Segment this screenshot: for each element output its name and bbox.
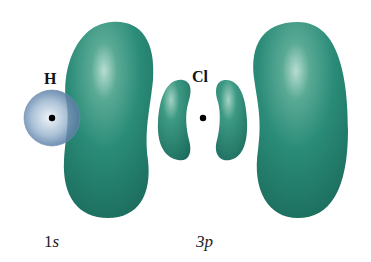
p-lobe-right-small: [216, 80, 247, 160]
h-nucleus-dot: [49, 115, 55, 121]
orbital-label-3p: 3p: [196, 232, 213, 252]
orbital-letter: s: [53, 232, 60, 251]
p-lobe-right-large: [253, 22, 348, 218]
orbital-number: 3: [196, 232, 205, 251]
cl-atom-label: Cl: [192, 68, 208, 86]
p-lobe-left-small: [158, 80, 191, 160]
orbital-diagram: H Cl 1s 3p: [0, 0, 371, 262]
cl-nucleus-dot: [200, 115, 206, 121]
orbital-number: 1: [44, 232, 53, 251]
orbital-letter: p: [205, 232, 214, 251]
orbital-label-1s: 1s: [44, 232, 59, 252]
h-atom-label: H: [44, 70, 56, 88]
orbital-overlap-graphic: [0, 0, 371, 262]
